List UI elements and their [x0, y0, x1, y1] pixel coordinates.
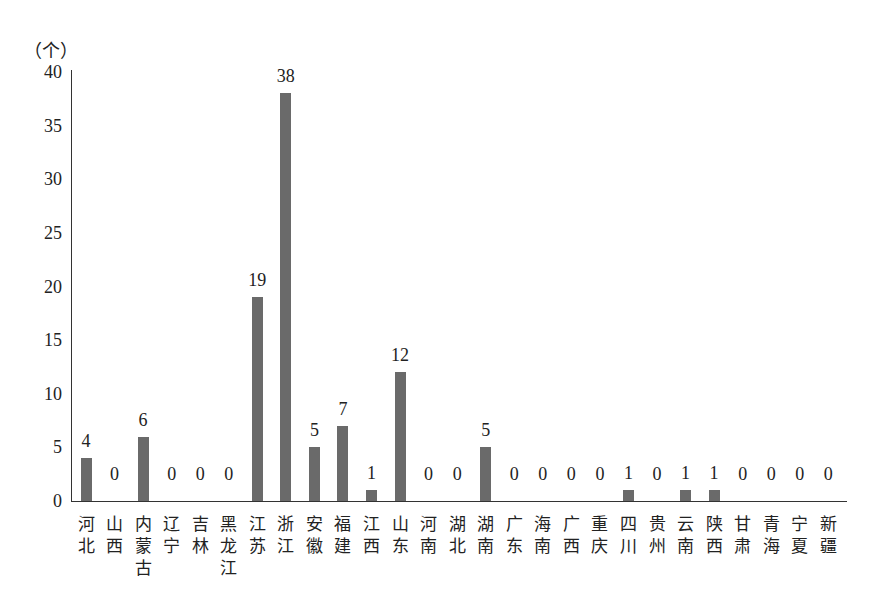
category-label: 重庆	[589, 513, 611, 557]
category-label: 宁夏	[789, 513, 811, 557]
bar	[680, 490, 691, 501]
bar	[709, 490, 720, 501]
category-label: 山东	[389, 513, 411, 557]
y-tick-label: 40	[26, 63, 62, 81]
bar	[280, 93, 291, 501]
bar	[309, 447, 320, 501]
data-label: 0	[728, 465, 758, 483]
bar	[623, 490, 634, 501]
data-label: 0	[642, 465, 672, 483]
data-label: 0	[756, 465, 786, 483]
data-label: 0	[813, 465, 843, 483]
category-label: 云南	[675, 513, 697, 557]
bar	[138, 437, 149, 501]
bar	[252, 297, 263, 501]
category-label: 辽宁	[161, 513, 183, 557]
category-label: 江苏	[246, 513, 268, 557]
data-label: 0	[785, 465, 815, 483]
category-label: 河北	[75, 513, 97, 557]
y-tick-label: 15	[26, 331, 62, 349]
y-tick-label: 30	[26, 170, 62, 188]
bar	[81, 458, 92, 501]
data-label: 1	[357, 464, 387, 482]
data-label: 0	[157, 465, 187, 483]
category-label: 广东	[503, 513, 525, 557]
category-label: 福建	[332, 513, 354, 557]
y-tick-label: 20	[26, 278, 62, 296]
category-label: 山西	[104, 513, 126, 557]
category-label: 江西	[361, 513, 383, 557]
data-label: 0	[185, 465, 215, 483]
category-label: 甘肃	[732, 513, 754, 557]
category-label: 吉林	[189, 513, 211, 557]
category-label: 湖北	[446, 513, 468, 557]
data-label: 19	[242, 271, 272, 289]
category-label: 湖南	[475, 513, 497, 557]
y-tick-label: 25	[26, 224, 62, 242]
y-axis-label: （个）	[24, 36, 78, 62]
data-label: 0	[100, 465, 130, 483]
data-label: 1	[613, 464, 643, 482]
data-label: 6	[128, 411, 158, 429]
bar	[480, 447, 491, 501]
category-label: 新疆	[817, 513, 839, 557]
category-label: 陕西	[703, 513, 725, 557]
data-label: 1	[699, 464, 729, 482]
data-label: 0	[414, 465, 444, 483]
y-tick-label: 5	[26, 438, 62, 456]
data-label: 12	[385, 346, 415, 364]
category-label: 四川	[617, 513, 639, 557]
category-label: 内蒙古	[132, 513, 154, 579]
y-tick-label: 35	[26, 117, 62, 135]
bar	[395, 372, 406, 501]
x-axis-line	[71, 501, 847, 502]
data-label: 0	[528, 465, 558, 483]
data-label: 0	[556, 465, 586, 483]
bar-chart: （个） 0510152025303540 4060001938571120050…	[0, 0, 872, 612]
data-label: 0	[585, 465, 615, 483]
data-label: 1	[671, 464, 701, 482]
y-tick-label: 10	[26, 385, 62, 403]
category-label: 海南	[532, 513, 554, 557]
category-label: 浙江	[275, 513, 297, 557]
data-label: 7	[328, 400, 358, 418]
category-label: 广西	[560, 513, 582, 557]
category-label: 贵州	[646, 513, 668, 557]
data-label: 0	[499, 465, 529, 483]
category-label: 河南	[418, 513, 440, 557]
y-tick-label: 0	[26, 492, 62, 510]
data-label: 5	[471, 421, 501, 439]
category-label: 黑龙江	[218, 513, 240, 579]
category-label: 安徽	[303, 513, 325, 557]
data-label: 0	[442, 465, 472, 483]
data-label: 0	[214, 465, 244, 483]
data-label: 5	[299, 421, 329, 439]
data-label: 4	[71, 432, 101, 450]
category-label: 青海	[760, 513, 782, 557]
bar	[366, 490, 377, 501]
data-label: 38	[271, 67, 301, 85]
bar	[337, 426, 348, 501]
